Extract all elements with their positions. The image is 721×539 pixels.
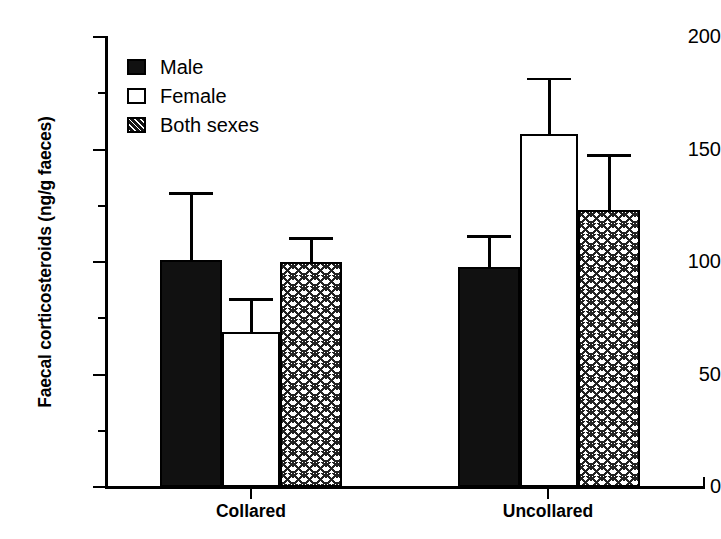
bar-uncollared-male (458, 267, 520, 488)
y-tick-label: 150 (635, 139, 721, 159)
error-bar-cap (467, 235, 511, 238)
x-tick-label-collared: Collared (151, 500, 351, 522)
y-tick-major (93, 36, 106, 38)
error-bar-cap (527, 78, 571, 81)
y-tick-minor (98, 317, 106, 319)
x-axis-end-tick (105, 477, 107, 488)
legend-label: Male (160, 57, 203, 77)
bar-collared-male (160, 260, 222, 487)
legend: MaleFemaleBoth sexes (127, 52, 259, 139)
y-tick-minor (98, 205, 106, 207)
y-tick-minor (98, 92, 106, 94)
y-tick-label: 200 (635, 26, 721, 46)
legend-item-both-sexes: Both sexes (127, 110, 259, 139)
legend-label: Female (160, 86, 227, 106)
legend-item-female: Female (127, 81, 259, 110)
bar-uncollared-female (520, 134, 578, 487)
y-tick-label: 100 (635, 251, 721, 271)
solid-square-icon (127, 59, 146, 75)
y-tick-major (93, 149, 106, 151)
error-bar-cap (587, 154, 631, 157)
y-tick-minor (98, 430, 106, 432)
legend-item-male: Male (127, 52, 259, 81)
error-bar-cap (169, 192, 213, 195)
y-tick-major (93, 374, 106, 376)
bar-uncollared-both-sexes (578, 210, 640, 487)
hatched-square-icon (127, 117, 146, 133)
y-tick-label: 50 (635, 364, 721, 384)
error-bar-cap (289, 237, 333, 240)
x-tick (250, 488, 252, 499)
legend-label: Both sexes (160, 115, 259, 135)
error-bar-stem (608, 154, 611, 210)
open-square-icon (127, 88, 146, 104)
bar-chart-figure: Faecal corticosteroids (ng/g faeces) 050… (0, 0, 721, 539)
x-tick-label-uncollared: Uncollared (448, 500, 648, 522)
y-tick-label: 0 (635, 476, 721, 496)
error-bar-cap (229, 298, 273, 301)
y-tick-major (93, 261, 106, 263)
bar-collared-both-sexes (280, 262, 342, 487)
y-axis-title: Faecal corticosteroids (ng/g faeces) (30, 27, 60, 497)
x-axis-end-tick (703, 477, 705, 488)
error-bar-stem (488, 235, 491, 267)
x-tick (547, 488, 549, 499)
error-bar-stem (548, 78, 551, 134)
error-bar-stem (250, 298, 253, 332)
bar-collared-female (222, 332, 280, 487)
error-bar-stem (190, 192, 193, 260)
error-bar-stem (310, 237, 313, 262)
